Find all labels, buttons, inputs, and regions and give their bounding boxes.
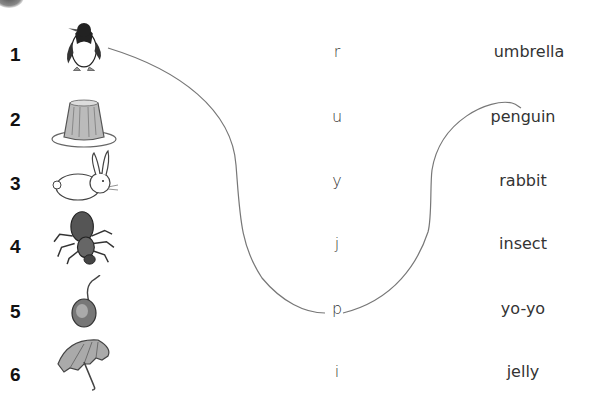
item-row-3: 3 y rabbit bbox=[0, 167, 591, 207]
item-number: 1 bbox=[10, 44, 21, 66]
item-row-6: 6 i jelly bbox=[0, 358, 591, 395]
word-penguin[interactable]: penguin bbox=[463, 107, 583, 126]
word-umbrella[interactable]: umbrella bbox=[469, 42, 589, 61]
item-number: 6 bbox=[10, 364, 21, 386]
item-number: 3 bbox=[10, 173, 21, 195]
item-number: 2 bbox=[10, 109, 21, 131]
letter-r[interactable]: r bbox=[330, 42, 344, 61]
letter-p[interactable]: p bbox=[330, 299, 344, 318]
item-row-5: 5 p yo-yo bbox=[0, 295, 591, 335]
item-row-4: 4 j insect bbox=[0, 230, 591, 270]
item-number: 5 bbox=[10, 301, 21, 323]
item-row-1: 1 r umbrella bbox=[0, 38, 591, 78]
rabbit-icon[interactable] bbox=[48, 147, 120, 205]
letter-y[interactable]: y bbox=[330, 171, 344, 190]
letter-i[interactable]: i bbox=[330, 362, 344, 381]
item-number: 4 bbox=[10, 236, 21, 258]
word-yo-yo[interactable]: yo-yo bbox=[463, 299, 583, 318]
letter-j[interactable]: j bbox=[330, 234, 344, 253]
letter-u[interactable]: u bbox=[330, 107, 344, 126]
word-insect[interactable]: insect bbox=[463, 234, 583, 253]
insect-icon[interactable] bbox=[48, 208, 120, 266]
penguin-icon[interactable] bbox=[48, 16, 120, 74]
corner-decoration bbox=[0, 0, 24, 8]
word-jelly[interactable]: jelly bbox=[463, 362, 583, 381]
umbrella-icon[interactable] bbox=[48, 334, 120, 392]
word-rabbit[interactable]: rabbit bbox=[463, 171, 583, 190]
item-row-2: 2 u penguin bbox=[0, 103, 591, 143]
jelly-icon[interactable] bbox=[48, 95, 120, 153]
yo-yo-icon[interactable] bbox=[48, 275, 120, 333]
